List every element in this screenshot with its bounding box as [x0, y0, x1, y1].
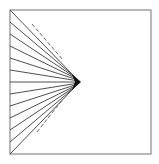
ray-fan-diagram	[0, 0, 159, 164]
ray-line	[10, 87, 75, 130]
ray-line	[10, 86, 76, 119]
ray-line	[10, 10, 73, 75]
ray-line	[10, 70, 78, 81]
ray-line	[10, 83, 78, 94]
diagram-canvas	[0, 0, 159, 164]
ray-line	[10, 89, 73, 154]
ray-line	[10, 46, 76, 79]
ray-line	[10, 34, 75, 77]
converging-rays	[10, 10, 79, 154]
dashed-line	[32, 24, 63, 60]
